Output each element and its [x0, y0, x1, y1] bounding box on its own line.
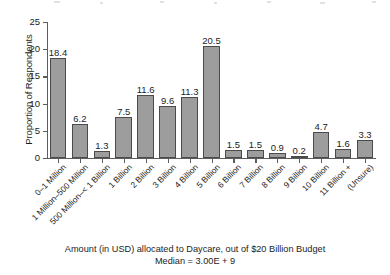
bar-value-label: 4.7	[315, 121, 328, 132]
x-tick	[58, 158, 59, 163]
y-tick-label: 5	[35, 125, 40, 136]
x-tick	[102, 158, 103, 163]
caption-line-1: Amount (in USD) allocated to Daycare, ou…	[0, 243, 390, 255]
x-tick	[212, 158, 213, 163]
scan-artifact	[214, 2, 217, 4]
y-tick-label: 25	[29, 16, 40, 27]
bar-value-label: 6.2	[73, 113, 86, 124]
y-axis-title: Proportion of Respondents	[23, 15, 34, 165]
y-tick: 15	[43, 76, 48, 77]
x-tick	[365, 158, 366, 163]
x-tick	[168, 158, 169, 163]
bar-value-label: 11.6	[137, 84, 155, 95]
y-tick-label: 20	[29, 43, 40, 54]
x-tick	[80, 158, 81, 163]
x-tick	[124, 158, 125, 163]
scan-artifact	[160, 1, 164, 3]
y-tick: 20	[43, 49, 48, 50]
caption-line-2: Median = 3.00E + 9	[0, 255, 390, 267]
y-tick-label: 0	[35, 152, 40, 163]
x-tick	[321, 158, 322, 163]
chart-caption: Amount (in USD) allocated to Daycare, ou…	[0, 243, 390, 267]
bar-value-label: 20.5	[202, 35, 221, 46]
scan-artifact	[267, 1, 271, 3]
x-tick	[190, 158, 191, 163]
y-tick-label: 15	[29, 70, 40, 81]
y-tick-label: 10	[29, 98, 40, 109]
plot-area: 0510152025 18.46.21.37.511.69.611.320.51…	[47, 22, 376, 158]
y-axis-line	[47, 22, 48, 158]
scan-artifact	[100, 2, 103, 4]
bar-value-label: 18.4	[49, 47, 68, 58]
bar: 20.5	[203, 46, 220, 158]
x-tick	[343, 158, 344, 163]
x-tick	[146, 158, 147, 163]
bar: 18.4	[50, 58, 67, 158]
bar-value-label: 11.3	[181, 86, 199, 97]
y-tick: 0	[43, 158, 48, 159]
bar-chart: Proportion of Respondents 0510152025 18.…	[0, 0, 390, 275]
scan-artifact	[320, 2, 325, 4]
y-tick: 5	[43, 131, 48, 132]
y-tick: 25	[43, 22, 48, 23]
y-tick: 10	[43, 104, 48, 105]
scan-artifact	[54, 1, 60, 3]
scan-artifact	[372, 1, 376, 3]
